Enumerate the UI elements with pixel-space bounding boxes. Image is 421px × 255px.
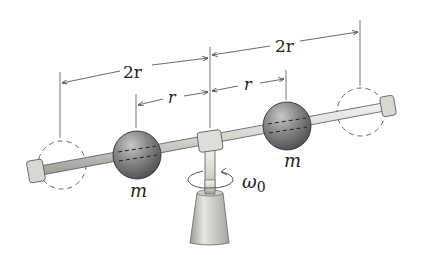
inner-left-dim-label: r xyxy=(168,88,177,107)
inner-right-dim-label: r xyxy=(244,75,253,94)
hub xyxy=(197,129,224,152)
outer-right-dim-label: 2r xyxy=(275,36,295,56)
mass-left xyxy=(113,131,161,179)
mass-right xyxy=(263,102,311,150)
base-stand xyxy=(190,193,229,245)
mass-left-label: m xyxy=(130,180,147,201)
rod-mass-diagram: 2r 2r r r xyxy=(0,0,421,255)
shaft-lower xyxy=(205,180,215,194)
end-cap-left xyxy=(26,159,46,183)
end-cap-right xyxy=(379,95,396,117)
mass-right-label: m xyxy=(284,150,301,171)
diagram-canvas: 2r 2r r r xyxy=(0,0,421,255)
outer-left-dim-label: 2r xyxy=(123,62,143,82)
angular-velocity-label: ω0 xyxy=(242,171,266,195)
